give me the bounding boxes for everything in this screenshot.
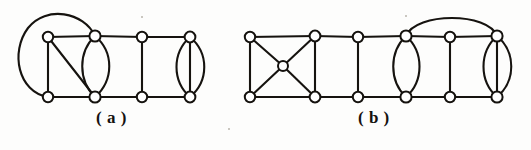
scan-speck	[141, 16, 143, 18]
edge-a-lens-4-right	[190, 37, 204, 97]
figure-container: ( a ) ( b )	[0, 0, 531, 150]
graph-node	[245, 92, 255, 102]
graph-node	[491, 91, 502, 102]
edge-b-lens-4-left	[393, 36, 406, 97]
graph-node	[353, 32, 363, 42]
edge-b-top-4-5	[406, 36, 450, 37]
edge-b-cross-br	[283, 66, 315, 97]
graph-node	[245, 32, 255, 42]
edge-a-lens-2-left	[82, 36, 95, 97]
graph-node-center	[278, 61, 288, 71]
edge-b-lens-4-right	[406, 36, 420, 97]
graph-node	[89, 91, 100, 102]
graph-node	[185, 32, 196, 43]
edge-a-lens-2-right	[95, 36, 109, 97]
graph-figure-canvas	[0, 0, 531, 150]
caption-graph-b: ( b )	[358, 108, 390, 128]
graph-b	[245, 18, 511, 103]
graph-node	[353, 92, 363, 102]
edge-a-top-1-2	[48, 36, 95, 37]
edge-b-lens-6-right	[497, 36, 511, 97]
edge-b-top-1-2	[250, 36, 315, 37]
graph-node	[400, 30, 411, 41]
graph-node	[310, 92, 321, 103]
edge-b-cross-tl	[250, 37, 283, 66]
edge-a-top-2-3	[95, 36, 142, 37]
graph-node	[445, 92, 455, 102]
edge-b-top-3-4	[358, 36, 406, 37]
scan-speck	[228, 128, 230, 130]
edge-b-cross-tr	[283, 36, 315, 66]
graph-node	[445, 32, 455, 42]
edge-b-cross-bl	[250, 66, 283, 97]
graph-node	[137, 92, 147, 102]
graph-node	[400, 91, 411, 102]
edge-a-lens-4-left	[177, 37, 191, 97]
graph-node	[185, 92, 196, 103]
graph-node	[491, 30, 502, 41]
graph-node	[43, 32, 53, 42]
scan-speck	[405, 15, 407, 17]
graph-node	[43, 92, 53, 102]
edge-b-top-5-6	[450, 36, 497, 37]
caption-graph-a: ( a )	[96, 108, 127, 128]
graph-node	[310, 31, 321, 42]
graph-node	[137, 32, 147, 42]
graph-node	[89, 30, 100, 41]
edge-b-top-2-3	[315, 36, 358, 37]
graph-a	[18, 14, 204, 103]
edge-b-lens-6-left	[484, 36, 498, 97]
